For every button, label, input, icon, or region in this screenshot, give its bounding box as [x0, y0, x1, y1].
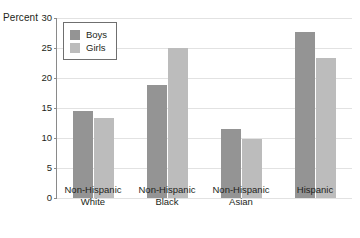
x-category-label: Non-HispanicWhite: [56, 184, 130, 207]
legend-label: Girls: [86, 43, 106, 53]
legend-item-boys: Boys: [70, 28, 107, 41]
bar-boys-3: [295, 32, 315, 198]
x-category-label: Hispanic: [278, 184, 352, 196]
y-tick-label-15: 15: [41, 103, 52, 113]
y-tick-label-20: 20: [41, 73, 52, 83]
y-tick-mark-15: [54, 108, 57, 109]
y-tick-mark-25: [54, 48, 57, 49]
legend-label: Boys: [86, 30, 107, 40]
x-category-label: Non-HispanicBlack: [130, 184, 204, 207]
y-tick-label-5: 5: [47, 163, 52, 173]
y-tick-mark-10: [54, 138, 57, 139]
bar-girls-1: [168, 48, 188, 198]
legend-item-girls: Girls: [70, 41, 107, 54]
y-tick-mark-5: [54, 168, 57, 169]
legend: BoysGirls: [63, 22, 117, 60]
bar-chart: Percent 051015202530 Non-HispanicWhiteNo…: [0, 0, 360, 238]
y-tick-mark-20: [54, 78, 57, 79]
bar-group: [221, 18, 262, 198]
x-category-label: Non-HispanicAsian: [204, 184, 278, 207]
y-tick-label-10: 10: [41, 133, 52, 143]
bar-group: [147, 18, 188, 198]
bar-boys-1: [147, 85, 167, 198]
y-tick-label-0: 0: [47, 193, 52, 203]
legend-swatch-girls: [70, 43, 80, 53]
y-tick-label-30: 30: [41, 13, 52, 23]
y-axis-title: Percent: [3, 12, 38, 23]
legend-swatch-boys: [70, 30, 80, 40]
bar-girls-3: [316, 58, 336, 198]
bar-group: [295, 18, 336, 198]
y-tick-mark-30: [54, 18, 57, 19]
y-tick-label-25: 25: [41, 43, 52, 53]
